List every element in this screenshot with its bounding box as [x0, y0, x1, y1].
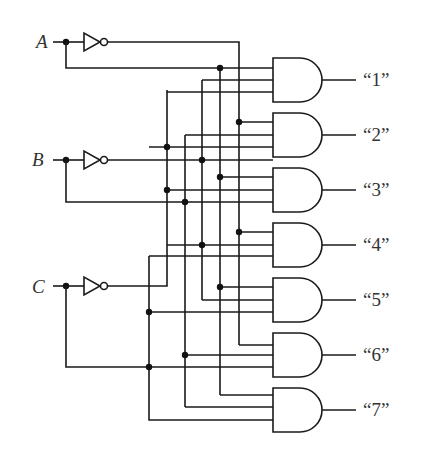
inverter-b-icon: [84, 151, 108, 169]
and-gate-2-icon: [273, 113, 322, 157]
input-label-c: C: [32, 276, 45, 297]
inverter-c-icon: [84, 277, 108, 295]
inverter-a-icon: [84, 33, 108, 51]
and-gate-1-icon: [273, 58, 322, 102]
and-gate-5-icon: [273, 278, 322, 322]
and-gate-7-icon: [273, 388, 322, 432]
output-label-7: “7”: [363, 399, 389, 420]
input-label-a: A: [34, 31, 48, 52]
and-gate-4-icon: [273, 223, 322, 267]
input-b-section: B: [32, 149, 273, 202]
and-gate-3-icon: [273, 168, 322, 212]
junction-dots: [146, 65, 242, 370]
output-label-3: “3”: [363, 179, 389, 200]
output-label-5: “5”: [363, 289, 389, 310]
output-label-4: “4”: [363, 234, 389, 255]
and-gates: [273, 58, 322, 432]
input-a-section: A: [34, 31, 273, 345]
output-wires: [322, 80, 356, 410]
and-gate-6-icon: [273, 333, 322, 377]
input-label-b: B: [32, 149, 44, 170]
decoder-circuit-diagram: A B C: [0, 0, 426, 457]
output-label-1: “1”: [363, 69, 389, 90]
output-label-2: “2”: [363, 124, 389, 145]
output-labels: “1” “2” “3” “4” “5” “6” “7”: [363, 69, 389, 420]
output-label-6: “6”: [363, 344, 389, 365]
input-c-section: C: [32, 90, 273, 367]
